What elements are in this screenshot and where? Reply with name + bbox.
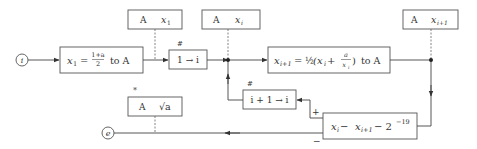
svg-text:+: + bbox=[327, 55, 335, 66]
test-label: x i − x i+1 − 2 −19 bbox=[331, 118, 410, 134]
mem-xi1-reg: A bbox=[410, 15, 418, 25]
svg-text:(x: (x bbox=[313, 55, 323, 66]
svg-text:to A: to A bbox=[361, 55, 381, 66]
svg-text:i+1: i+1 bbox=[361, 126, 373, 134]
iterate-label: x i+1 = ½ (x i + a x i ) to A bbox=[274, 51, 381, 70]
mem-x1-reg: A bbox=[139, 15, 147, 25]
set-i-label: 1 → i bbox=[177, 55, 199, 65]
svg-text:1+a: 1+a bbox=[91, 51, 105, 59]
svg-text:1: 1 bbox=[73, 60, 77, 68]
junction-dot bbox=[429, 58, 433, 62]
svg-text:1: 1 bbox=[167, 19, 171, 26]
svg-text:a: a bbox=[344, 51, 348, 59]
svg-text:=: = bbox=[80, 55, 88, 66]
plus-branch-label: + bbox=[312, 107, 320, 117]
mem-result-box bbox=[128, 97, 182, 116]
mem-result-val: √a bbox=[159, 101, 171, 112]
flow-junction2-test bbox=[417, 60, 431, 126]
set-i-mark: # bbox=[177, 40, 183, 48]
svg-text:x: x bbox=[342, 61, 346, 69]
svg-text:to A: to A bbox=[110, 55, 130, 66]
mem-xi1-val: x i+1 bbox=[431, 14, 448, 26]
mem-x1-box bbox=[128, 10, 182, 29]
mem-result-mark: * bbox=[133, 86, 137, 95]
svg-text:i: i bbox=[337, 126, 339, 134]
mem-result-reg: A bbox=[138, 102, 146, 112]
flow-inc-loop bbox=[228, 61, 243, 100]
mem-xi-reg: A bbox=[212, 15, 220, 25]
svg-text:− 2: − 2 bbox=[374, 121, 392, 132]
flowchart-diagram: i e x 1 = 1+a 2 to A # 1 → i x i+1 = ½ (… bbox=[0, 0, 477, 149]
svg-text:i: i bbox=[348, 65, 350, 70]
svg-text:=: = bbox=[294, 55, 302, 66]
inc-i-label: i + 1 → i bbox=[250, 95, 288, 105]
svg-text:−: − bbox=[340, 121, 348, 132]
end-label: e bbox=[106, 129, 111, 138]
svg-text:i+1: i+1 bbox=[280, 60, 292, 68]
svg-text:i: i bbox=[324, 60, 326, 68]
minus-branch-label: − bbox=[313, 136, 321, 146]
svg-text:i+1: i+1 bbox=[437, 19, 448, 26]
mem-x1-val: x 1 bbox=[161, 14, 171, 26]
inc-i-mark: # bbox=[247, 80, 253, 88]
svg-text:−19: −19 bbox=[396, 118, 410, 126]
mem-xi-val: x i bbox=[235, 14, 243, 26]
svg-text:i: i bbox=[241, 19, 243, 26]
mem-xi-box bbox=[202, 10, 260, 29]
svg-text:): ) bbox=[352, 55, 356, 66]
junction-dot bbox=[226, 58, 230, 62]
init-label: x 1 = 1+a 2 to A bbox=[67, 51, 130, 68]
svg-text:2: 2 bbox=[96, 60, 100, 68]
start-label: i bbox=[21, 56, 24, 65]
